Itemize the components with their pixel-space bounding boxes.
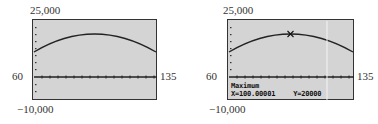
graph-panel-right: 25,000 60 135 −10,000 [189,0,378,124]
x-min-label: 60 [12,71,23,82]
y-min-label: −10,000 [209,104,245,115]
x-max-label: 135 [160,71,177,82]
calculator-screen [32,19,157,100]
function-curve [34,34,156,52]
y-max-label: 25,000 [223,5,253,16]
graph-panel-left: 25,000 60 135 −10,000 [0,0,189,124]
y-axis-ticks [230,27,232,70]
y-axis-ticks [35,27,37,92]
y-min-label: −10,000 [17,104,53,115]
maximum-readout: Maximum X=100.00001 Y=20000 [231,83,321,98]
graph-plot [33,20,158,101]
readout-x-value: X=100.00001 [231,90,275,98]
y-max-label: 25,000 [30,5,60,16]
calculator-screen: Maximum X=100.00001 Y=20000 [227,19,354,100]
readout-y-value: Y=20000 [293,90,321,98]
x-min-label: 60 [206,71,217,82]
function-curve [229,34,353,52]
x-max-label: 135 [357,71,374,82]
